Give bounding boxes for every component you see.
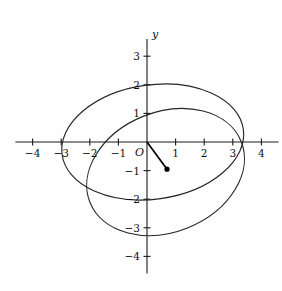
data-point [164,167,169,172]
x-tick-label: 2 [201,147,208,159]
radius-segment [147,142,167,169]
plot-figure: −4−3−2−11234321−1−2−3−4xyO [0,0,282,291]
curves-group [54,73,264,259]
y-tick-label: −3 [125,222,140,234]
x-tick-label: 4 [258,147,265,159]
y-tick-label: −4 [125,250,141,262]
ellipse-curve [68,86,264,258]
x-tick-label: −4 [25,147,41,159]
coordinate-plane-svg: −4−3−2−11234321−1−2−3−4xyO [0,0,282,291]
y-tick-label: −2 [125,193,140,205]
y-tick-label: −1 [125,165,140,177]
overlay-group [147,142,170,172]
x-tick-label: −2 [82,147,97,159]
x-tick-label: −1 [111,147,126,159]
y-axis-label: y [151,28,159,41]
y-tick-label: 1 [133,107,140,119]
y-tick-label: 2 [133,79,140,91]
origin-label: O [135,146,144,159]
labels-group: −4−3−2−11234321−1−2−3−4xyO [25,28,282,262]
x-tick-label: −3 [53,147,68,159]
y-tick-label: 3 [133,50,140,62]
x-tick-label: 3 [229,147,236,159]
x-tick-label: 1 [172,147,179,159]
